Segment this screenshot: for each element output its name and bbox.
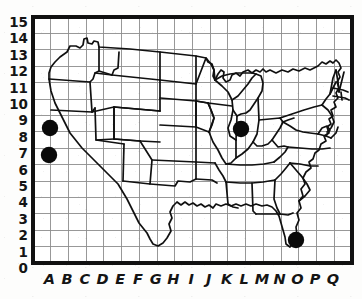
y-axis-tick-label: 2 (4, 229, 28, 243)
y-axis-tick-label: 7 (4, 147, 28, 161)
state-border-mo-ar (196, 162, 215, 163)
state-border-az-ut (96, 139, 114, 140)
y-axis-tick-label: 9 (4, 114, 28, 128)
state-border-ct-ri (341, 92, 342, 100)
y-axis-tick-label: 15 (4, 16, 28, 30)
state-border-az-nm (123, 144, 124, 181)
x-axis-tick-label: Q (323, 272, 343, 287)
y-axis-tick-label: 11 (4, 82, 28, 96)
y-axis-tick-label: 0 (4, 262, 28, 276)
state-border-co-ks (140, 141, 160, 142)
y-axis-tick-label: 8 (4, 131, 28, 145)
y-axis-tick-label: 10 (4, 98, 28, 112)
y-axis-tick-label: 5 (4, 180, 28, 194)
y-axis-tick-label: 14 (4, 32, 28, 46)
data-point-marker (233, 121, 249, 137)
data-point-marker (41, 147, 57, 163)
y-axis-tick-label: 3 (4, 213, 28, 227)
data-point-marker (288, 232, 304, 248)
y-axis-tick-label: 1 (4, 246, 28, 260)
y-axis-tick-label: 13 (4, 49, 28, 63)
plot-area (0, 0, 362, 299)
y-axis-tick-label: 12 (4, 65, 28, 79)
chart-canvas: 1514131211109876543210 ABCDEFGHIJKLMNOPQ (0, 0, 362, 299)
y-axis-tick-label: 4 (4, 196, 28, 210)
y-axis-tick-label: 6 (4, 164, 28, 178)
data-point-marker (42, 120, 58, 136)
